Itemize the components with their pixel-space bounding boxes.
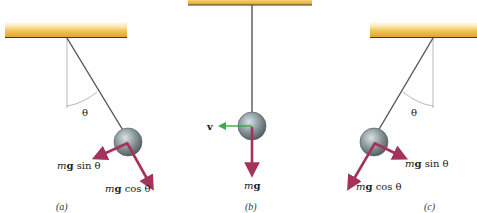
angle-arc	[67, 92, 97, 106]
panel-b: v mg (b)	[188, 0, 312, 213]
tangential-force-label: mg sin θ	[405, 158, 449, 169]
ceiling	[188, 0, 312, 5]
radial-force-label: mg cos θ	[356, 181, 402, 192]
bob	[360, 128, 388, 156]
panel-a: θ mg sin θ mg cos θ (a)	[5, 22, 151, 213]
caption-c: (c)	[424, 201, 436, 213]
string	[378, 38, 433, 131]
velocity-label: v	[206, 121, 214, 132]
string	[67, 38, 124, 132]
angle-label: θ	[82, 107, 88, 118]
ceiling	[370, 22, 477, 37]
bob	[114, 128, 142, 156]
weight-label: mg	[244, 180, 260, 191]
angle-label: θ	[411, 107, 417, 118]
tangential-force-label: mg sin θ	[57, 160, 101, 171]
panel-c: θ mg sin θ mg cos θ (c)	[351, 22, 477, 213]
caption-a: (a)	[56, 201, 68, 213]
angle-arc	[403, 92, 433, 106]
caption-b: (b)	[245, 201, 257, 213]
radial-force-label: mg cos θ	[105, 183, 151, 194]
pendulum-figure: θ mg sin θ mg cos θ (a) v mg (b) θ	[0, 0, 477, 213]
ceiling	[5, 22, 127, 37]
